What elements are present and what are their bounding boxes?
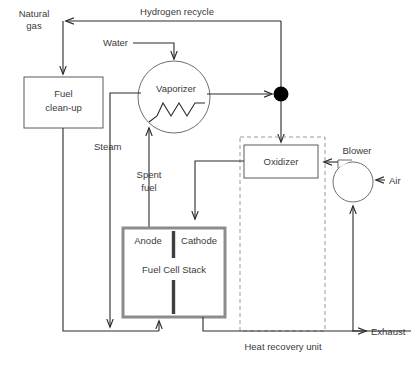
- process-flow-diagram: Natural gas Hydrogen recycle Water Fuel …: [0, 0, 412, 370]
- fuel-cell-stack-unit: Anode Cathode Fuel Cell Stack: [123, 228, 225, 317]
- exhaust-label: Exhaust: [371, 326, 406, 337]
- oxidizer-unit: Oxidizer: [244, 145, 318, 178]
- fuel-cleanup-label-line1: Fuel: [54, 88, 72, 99]
- hydrogen-recycle-label: Hydrogen recycle: [140, 6, 214, 17]
- spent-fuel-label-line1: Spent: [137, 169, 162, 180]
- anode-label: Anode: [134, 235, 161, 246]
- vaporizer-label: Vaporizer: [156, 83, 196, 94]
- natural-gas-label-line1: Natural: [19, 8, 50, 19]
- cathode-label: Cathode: [181, 235, 217, 246]
- fuel-cell-stack-label: Fuel Cell Stack: [142, 264, 206, 275]
- fuel-cleanup-label-line2: clean-up: [45, 102, 81, 113]
- steam-label: Steam: [94, 141, 122, 152]
- vaporizer-unit: Vaporizer: [138, 61, 210, 133]
- air-stream: Air: [376, 175, 401, 186]
- water-label: Water: [103, 37, 128, 48]
- water-feed-line: [133, 43, 174, 59]
- junction-dot: [274, 87, 289, 102]
- vaporizer-circle: [138, 61, 210, 133]
- water-stream: Water: [103, 37, 174, 59]
- blower-unit: Blower: [333, 145, 373, 202]
- spent-fuel-stream: Spent fuel: [137, 128, 162, 227]
- spent-fuel-label-line2: fuel: [141, 182, 156, 193]
- oxidizer-to-cathode-line: [195, 161, 244, 219]
- fuel-cleanup-unit: Fuel clean-up: [24, 77, 103, 128]
- blower-circle: [333, 162, 373, 202]
- air-label: Air: [389, 175, 401, 186]
- heat-recovery-label: Heat recovery unit: [244, 341, 321, 352]
- exhaust-stream: Exhaust: [352, 326, 406, 337]
- oxidizer-label: Oxidizer: [264, 156, 299, 167]
- natural-gas-stream: Natural gas: [19, 8, 50, 31]
- natural-gas-label-line2: gas: [26, 20, 42, 31]
- blower-label: Blower: [342, 145, 371, 156]
